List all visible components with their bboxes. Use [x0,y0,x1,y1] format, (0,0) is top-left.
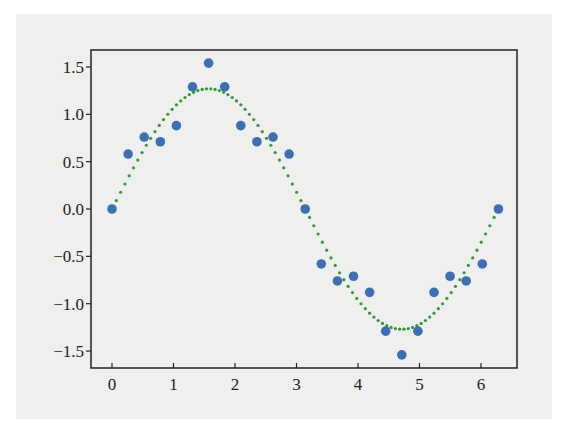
fit-dot [402,328,405,331]
fit-dot [488,224,491,227]
fit-dot [325,249,328,252]
fit-dot [261,130,264,133]
fit-dot [132,166,135,169]
fit-dot [158,124,161,127]
fit-dot [329,256,332,259]
data-point [204,58,214,68]
fit-dot [145,144,148,147]
fit-dot [213,88,216,91]
data-point [413,326,423,336]
y-tick-label: 1.5 [63,58,84,77]
fit-dot [321,241,324,244]
fit-dot [450,291,453,294]
fit-dot [480,241,483,244]
fit-dot [278,158,281,161]
fit-dot [140,151,143,154]
fit-dot [437,307,440,310]
y-tick-label: −1.0 [53,295,84,314]
x-tick-label: 3 [292,375,301,394]
y-tick-label: 0.5 [63,153,84,172]
fit-dot [218,89,221,92]
fit-dot [377,319,380,322]
fit-dot [312,224,315,227]
data-point [172,121,182,131]
fit-dot [428,315,431,318]
fit-dot [209,87,212,90]
y-tick-label: 1.0 [63,105,84,124]
fit-dot [493,216,496,219]
fit-dot [351,291,354,294]
fit-dot [424,319,427,322]
data-point [300,204,310,214]
x-tick-label: 6 [477,375,486,394]
fit-dot [128,174,131,177]
data-point [478,259,488,269]
fit-dot [196,89,199,92]
fit-dot [389,326,392,329]
fit-dot [205,87,208,90]
data-point [397,350,407,360]
data-point [317,259,327,269]
fit-dot [484,232,487,235]
fit-dot [226,93,229,96]
fit-dot [338,271,341,274]
fit-dot [201,88,204,91]
fit-dot [291,182,294,185]
fit-dot [282,166,285,169]
fit-dot [368,312,371,315]
fit-dot [123,182,126,185]
fit-dot [274,151,277,154]
data-point [220,82,230,92]
data-point [381,326,391,336]
fit-dot [407,327,410,330]
fit-dot [394,327,397,330]
fit-dot [175,103,178,106]
fit-dot [462,271,465,274]
fit-dot [441,302,444,305]
fit-dot [115,199,118,202]
fit-dot [355,297,358,300]
chart: 0123456 1.51.00.50.0−0.5−1.0−1.5 [0,0,570,438]
fit-dot [454,285,457,288]
fit-dot [171,108,174,111]
fit-dot [359,302,362,305]
data-point [365,288,375,298]
scatter-points [107,58,503,359]
x-tick-label: 1 [169,375,178,394]
data-point [494,204,504,214]
x-tick-label: 5 [415,375,424,394]
fit-dot [269,144,272,147]
fit-dot [295,191,298,194]
fit-dot [381,322,384,325]
fit-dot [411,326,414,329]
fit-dot [162,118,165,121]
fit-dot [256,124,259,127]
data-point [461,276,471,286]
fit-dot [342,278,345,281]
fit-dot [299,199,302,202]
fit-dot [252,118,255,121]
data-point [268,132,278,142]
fit-dot [179,99,182,102]
fit-dot [398,328,401,331]
fit-dot [119,191,122,194]
fit-dot [471,256,474,259]
fit-dot [420,322,423,325]
x-tick-label: 2 [231,375,240,394]
data-point [349,271,359,281]
x-tick-label: 0 [108,375,117,394]
fit-dot [188,93,191,96]
data-point [188,82,198,92]
fit-dot [372,315,375,318]
x-tick-label: 4 [354,375,363,394]
data-point [107,204,117,214]
fit-dot [248,113,251,116]
fit-dot [475,249,478,252]
fit-dot [235,99,238,102]
fit-dot [308,216,311,219]
fit-dot [364,307,367,310]
y-tick-label: 0.0 [63,200,84,219]
fit-dot [243,108,246,111]
fit-dot [467,264,470,267]
fit-dot [334,264,337,267]
